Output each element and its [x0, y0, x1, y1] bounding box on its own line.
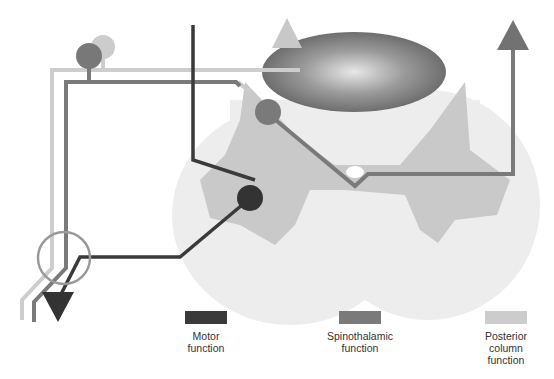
legend-item-spinothalamic: Spinothalamic function — [320, 311, 400, 354]
motor-arrow-down — [42, 292, 74, 322]
central-canal — [346, 166, 364, 178]
legend-swatch-spinothalamic — [339, 311, 381, 324]
legend-swatch-posterior-column — [485, 311, 527, 324]
motor-neuron — [237, 185, 263, 211]
spinothalamic-cord-neuron — [255, 99, 281, 125]
legend-swatch-motor — [185, 311, 227, 324]
posterior-column-arrow-up — [272, 18, 302, 48]
legend-label-motor: Motor function — [180, 330, 232, 354]
legend-label-posterior-column: Posterior column function — [476, 330, 536, 366]
legend-item-motor: Motor function — [180, 311, 232, 354]
spinothalamic-arrow-up — [497, 20, 529, 50]
spinal-pathway-diagram — [0, 0, 554, 379]
legend-label-spinothalamic: Spinothalamic function — [320, 330, 400, 354]
spinothalamic-ganglion — [76, 43, 102, 69]
legend-item-posterior-column: Posterior column function — [476, 311, 536, 366]
